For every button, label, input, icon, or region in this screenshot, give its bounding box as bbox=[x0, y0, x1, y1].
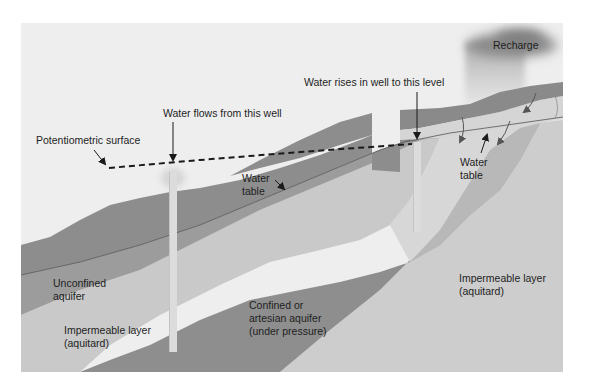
confined-line2: artesian aquifer bbox=[249, 312, 322, 324]
water-rises-label: Water rises in well to this level bbox=[304, 76, 444, 88]
unconfined-line2: aquifer bbox=[53, 290, 86, 302]
water-table-right-label: Water bbox=[460, 156, 488, 168]
water-table-right-line1: Water bbox=[460, 156, 488, 168]
potentiometric-surface-label: Potentiometric surface bbox=[36, 134, 141, 146]
impermeable-left-line2: (aquitard) bbox=[64, 337, 109, 349]
well-icon bbox=[413, 142, 421, 232]
aquifer-diagram: Recharge Water rises in well to this lev… bbox=[0, 0, 592, 388]
impermeable-right-label: Impermeable layer bbox=[459, 272, 546, 284]
impermeable-left-line1: Impermeable layer bbox=[64, 324, 151, 336]
unconfined-aquifer-label: Unconfined bbox=[53, 277, 106, 289]
unconfined-line1: Unconfined bbox=[53, 277, 106, 289]
confined-aquifer-label-2: artesian aquifer bbox=[249, 312, 322, 324]
impermeable-right-line2: (aquitard) bbox=[459, 285, 504, 297]
water-table-left-label-2: table bbox=[242, 185, 265, 197]
water-table-right-line2: table bbox=[460, 169, 483, 181]
impermeable-right-label-2: (aquitard) bbox=[459, 285, 504, 297]
confined-line1: Confined or bbox=[249, 299, 304, 311]
water-table-left-label: Water bbox=[242, 172, 270, 184]
confined-line3: (under pressure) bbox=[249, 325, 327, 337]
confined-aquifer-label: Confined or bbox=[249, 299, 304, 311]
confined-aquifer-label-3: (under pressure) bbox=[249, 325, 327, 337]
unconfined-aquifer-label-2: aquifer bbox=[53, 290, 86, 302]
impermeable-left-label-2: (aquitard) bbox=[64, 337, 109, 349]
water-table-left-line1: Water bbox=[242, 172, 270, 184]
recharge-label: Recharge bbox=[493, 39, 539, 51]
impermeable-left-label: Impermeable layer bbox=[64, 324, 151, 336]
water-flows-label: Water flows from this well bbox=[163, 107, 282, 119]
water-table-left-line2: table bbox=[242, 185, 265, 197]
water-table-right-label-2: table bbox=[460, 169, 483, 181]
impermeable-right-line1: Impermeable layer bbox=[459, 272, 546, 284]
